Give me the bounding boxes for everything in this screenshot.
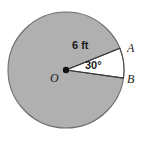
geometry-figure: 6 ft 30° A B O: [0, 0, 147, 141]
point-label-o: O: [50, 72, 59, 84]
point-label-a: A: [127, 42, 134, 54]
circle-sector-drawing: [0, 0, 147, 141]
radius-measure-label: 6 ft: [72, 40, 89, 51]
center-point-dot: [63, 67, 69, 73]
central-angle-label: 30°: [85, 60, 102, 71]
point-label-b: B: [127, 73, 134, 85]
